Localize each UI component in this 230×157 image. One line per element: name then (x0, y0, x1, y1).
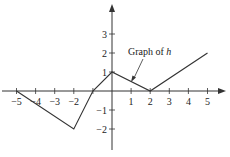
x-tick-label: 2 (148, 96, 153, 107)
x-tick-label: −3 (49, 96, 60, 107)
x-tick-label: −2 (68, 96, 79, 107)
x-tick-label: −5 (11, 96, 22, 107)
chart: −5−4−3−212345−2−1123 Graph of h (0, 0, 230, 157)
x-axis-arrow-icon (218, 88, 226, 94)
annotation-arrow-head-icon (131, 76, 136, 83)
y-tick-label: 2 (102, 48, 107, 59)
x-tick-label: 1 (129, 96, 134, 107)
y-tick-label: −2 (96, 124, 107, 135)
x-tick-label: 3 (167, 96, 172, 107)
x-tick-label: 4 (186, 96, 191, 107)
y-tick-label: 3 (102, 29, 107, 40)
axes (2, 4, 226, 150)
annotation-label: Graph of h (128, 46, 171, 57)
ticks: −5−4−3−212345−2−1123 (11, 29, 210, 135)
y-tick-label: −1 (96, 105, 107, 116)
annotation-arrow-line (134, 59, 143, 78)
y-axis-arrow-icon (109, 4, 115, 12)
annotation: Graph of h (128, 46, 171, 82)
x-tick-label: 5 (205, 96, 210, 107)
y-tick-label: 1 (102, 67, 107, 78)
